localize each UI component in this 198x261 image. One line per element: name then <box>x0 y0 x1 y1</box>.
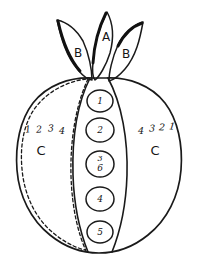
left-rib-number-3: 3 <box>48 122 54 133</box>
right-rib-number-3: 2 <box>158 121 166 132</box>
left-segment-rib-numbers: 1 2 3 4 <box>24 122 65 135</box>
right-rib-number-1: 4 <box>137 125 144 136</box>
leaf-left-label: B <box>74 46 82 60</box>
right-rib-number-2: 3 <box>149 122 155 133</box>
left-rib-number-2: 2 <box>35 123 43 134</box>
center-circle-2: 2 <box>86 118 114 142</box>
center-circle-1-number: 1 <box>97 96 103 106</box>
left-rib-number-4: 4 <box>58 125 65 136</box>
right-segment-rib-numbers: 4 3 2 1 <box>137 120 176 135</box>
center-circle-3-overwritten-number: 6 <box>97 163 103 173</box>
center-circle-3: 3 6 <box>86 151 114 177</box>
center-circle-5-number: 5 <box>97 227 103 237</box>
center-circle-4-number: 4 <box>96 194 103 204</box>
leaf-center-label: A <box>102 30 111 44</box>
center-circle-4: 4 <box>86 187 114 211</box>
leaf-right-label: B <box>122 47 130 61</box>
left-rib-number-1: 1 <box>24 123 31 135</box>
center-circle-5: 5 <box>87 221 113 243</box>
left-segment-label: C <box>36 143 45 158</box>
leaf-center-group <box>93 12 113 80</box>
center-circle-1: 1 <box>87 90 113 112</box>
right-segment-label: C <box>150 143 159 158</box>
center-circle-2-number: 2 <box>96 125 103 135</box>
right-rib-number-4: 1 <box>169 120 176 132</box>
botanical-diagram-figure: B A B 1 2 3 6 4 5 1 2 3 4 <box>0 0 198 261</box>
diagram-canvas: B A B 1 2 3 6 4 5 1 2 3 4 <box>0 0 198 261</box>
